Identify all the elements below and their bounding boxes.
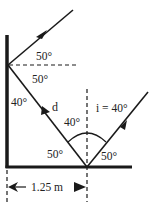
label-d: d — [52, 100, 58, 114]
label-wall-normal-50: 50° — [32, 73, 49, 85]
outgoing-arrow-icon — [36, 30, 47, 39]
label-distance: 1.25 m — [31, 181, 63, 193]
label-reflected-40: 40° — [64, 116, 81, 128]
label-incident: i = 40° — [96, 102, 128, 114]
dimension-right-arrow-icon — [74, 182, 86, 192]
label-floor-right-50: 50° — [101, 150, 118, 162]
label-upper-50: 50° — [36, 50, 53, 62]
reflection-diagram: 50° 50° 40° d 40° i = 40° 50° 50° 1.25 m — [0, 0, 159, 206]
label-wall-40: 40° — [11, 96, 28, 108]
label-floor-left-50: 50° — [47, 148, 64, 160]
